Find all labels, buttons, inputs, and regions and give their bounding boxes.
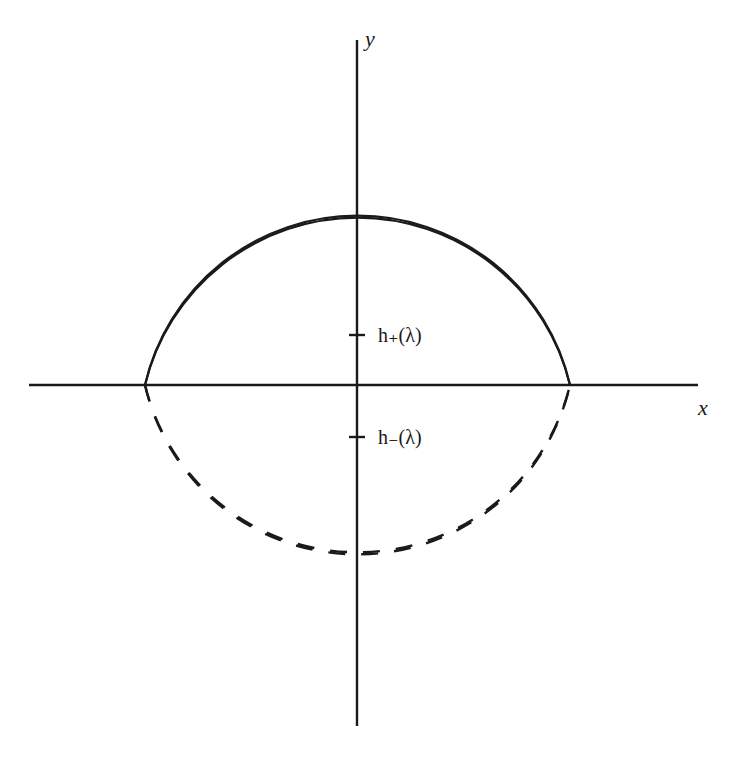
diagram-figure: y x h₊(λ) h₋(λ): [0, 0, 743, 759]
y-axis-label: y: [363, 26, 375, 51]
diagram-canvas: y x h₊(λ) h₋(λ): [0, 0, 743, 759]
h-minus-label: h₋(λ): [378, 426, 422, 449]
x-axis-label: x: [697, 395, 708, 420]
h-plus-label: h₊(λ): [378, 324, 422, 347]
